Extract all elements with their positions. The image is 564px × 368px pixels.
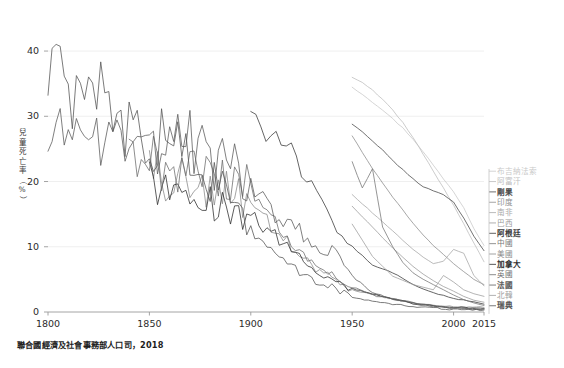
series-line <box>352 87 484 245</box>
x-tick-label: 1950 <box>332 318 372 329</box>
legend-item-5[interactable]: 巴西 <box>497 219 563 229</box>
legend-item-0[interactable]: 布吉納法索 <box>497 167 563 177</box>
y-axis-label-char: ） <box>17 191 27 207</box>
y-tick-label: 20 <box>15 176 39 187</box>
series-line <box>352 224 484 296</box>
x-tick-label: 1900 <box>231 318 271 329</box>
legend-item-4[interactable]: 南非 <box>497 208 563 218</box>
y-axis-label-char: 兒 <box>14 128 30 138</box>
legend-item-10[interactable]: 英國 <box>497 270 563 280</box>
legend-item-6[interactable]: 阿根廷 <box>497 229 563 239</box>
legend-item-1[interactable]: 阿富汗 <box>497 177 563 187</box>
series-line <box>352 136 484 285</box>
x-tick-label: 1800 <box>28 318 68 329</box>
y-axis-label-char: 童 <box>14 138 30 148</box>
series-line <box>149 151 484 308</box>
legend-item-2[interactable]: 剛果 <box>497 188 563 198</box>
legend-item-11[interactable]: 法國 <box>497 281 563 291</box>
chart-figure: 兒童死亡率（%） 布吉納法索阿富汗剛果印度南非巴西阿根廷中國美國加拿大英國法國北… <box>0 0 564 368</box>
chart-plot-area <box>0 0 564 368</box>
y-axis-label: 兒童死亡率（%） <box>14 128 30 204</box>
legend-item-9[interactable]: 加拿大 <box>497 260 563 270</box>
y-tick-label: 10 <box>15 241 39 252</box>
y-tick-label: 30 <box>15 110 39 121</box>
y-axis-label-char: 亡 <box>14 157 30 167</box>
x-tick-label: 2015 <box>464 318 504 329</box>
y-tick-label: 40 <box>15 45 39 56</box>
x-tick-label: 1850 <box>129 318 169 329</box>
legend-item-13[interactable]: 瑞典 <box>497 301 563 311</box>
legend-item-7[interactable]: 中國 <box>497 239 563 249</box>
legend-item-12[interactable]: 北韓 <box>497 291 563 301</box>
legend-item-3[interactable]: 印度 <box>497 198 563 208</box>
chart-legend: 布吉納法索阿富汗剛果印度南非巴西阿根廷中國美國加拿大英國法國北韓瑞典 <box>497 167 563 312</box>
y-axis-label-char: 死 <box>14 147 30 157</box>
legend-item-8[interactable]: 美國 <box>497 250 563 260</box>
series-line <box>352 124 484 250</box>
source-caption: 聯合國經濟及社會事務部人口司，2018 <box>17 338 164 350</box>
y-tick-label: 0 <box>15 306 39 317</box>
